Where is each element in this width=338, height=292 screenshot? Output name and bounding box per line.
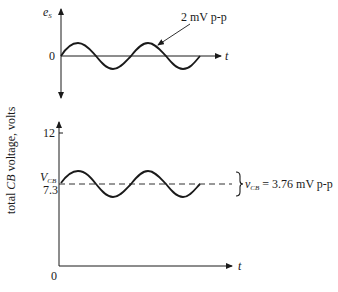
top-t-label: t: [225, 50, 228, 62]
brace-icon: [236, 172, 243, 196]
top-origin-label: 0: [49, 50, 55, 62]
bottom-plot: [59, 122, 243, 266]
bottom-t-label: t: [238, 260, 241, 272]
vcb-value-label: 7.3: [43, 184, 58, 196]
diagram-canvas: [0, 0, 338, 292]
bottom-y-axis-title: total CB voltage, volts: [4, 107, 19, 214]
p-p-annotation-label: 2 mV p-p: [181, 11, 227, 23]
vcb-pp-label: vCB = 3.76 mV p-p: [245, 178, 333, 192]
bottom-origin-label: 0: [51, 270, 57, 282]
top-y-axis-label: eS: [43, 6, 52, 20]
annotation-arrow: [158, 24, 190, 45]
tick-12-label: 12: [43, 127, 55, 139]
